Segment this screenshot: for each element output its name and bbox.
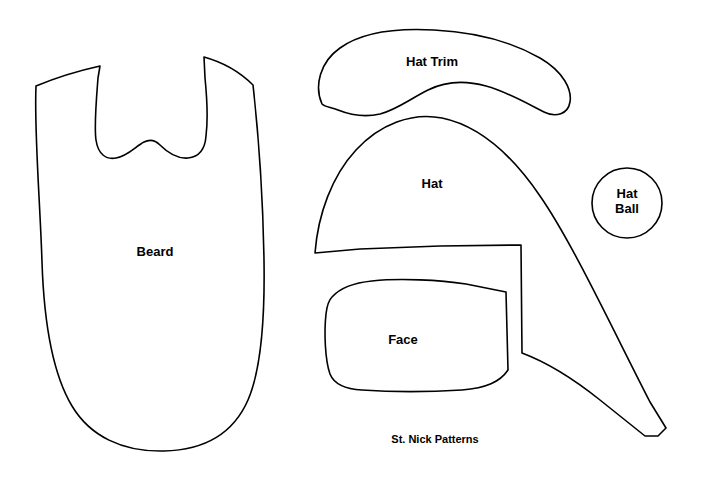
sheet-caption: St. Nick Patterns: [391, 433, 478, 445]
piece-label-hat: Hat: [422, 177, 443, 192]
piece-label-hat-trim: Hat Trim: [406, 55, 458, 70]
piece-shape-hat-trim[interactable]: [319, 30, 571, 116]
piece-label-hat-ball: Hat Ball: [615, 187, 639, 216]
piece-label-face: Face: [388, 333, 418, 348]
pattern-sheet: Beard Hat Trim Hat Hat Ball Face St. Nic…: [0, 0, 706, 478]
piece-label-beard: Beard: [137, 245, 174, 260]
pattern-shapes-canvas: [0, 0, 706, 478]
